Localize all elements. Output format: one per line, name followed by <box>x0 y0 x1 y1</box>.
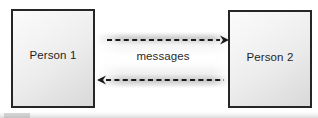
scan-artifact-corner <box>4 113 30 118</box>
channel-label: messages <box>96 50 230 62</box>
arrow-forward-icon <box>107 36 229 45</box>
diagram-canvas: Person 1 messages Person 2 <box>0 0 318 118</box>
node-person-1-label: Person 1 <box>13 49 93 61</box>
node-person-1: Person 1 <box>11 9 95 108</box>
scan-artifact-bottom <box>0 112 318 118</box>
message-channel: messages <box>96 28 230 92</box>
arrow-reverse-icon <box>97 76 224 85</box>
node-person-2-label: Person 2 <box>230 51 310 63</box>
node-person-2: Person 2 <box>228 10 312 108</box>
